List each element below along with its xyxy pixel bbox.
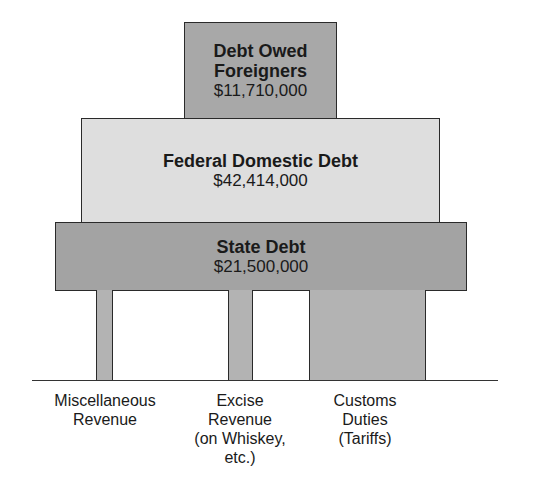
block-amount: $21,500,000 xyxy=(214,257,309,277)
label-line: (on Whiskey, xyxy=(180,429,300,448)
excise-revenue-label: Excise Revenue (on Whiskey, etc.) xyxy=(180,391,300,467)
state-debt-block: State Debt $21,500,000 xyxy=(55,222,467,291)
misc-revenue-label: Miscellaneous Revenue xyxy=(40,391,170,429)
label-line: Miscellaneous xyxy=(40,391,170,410)
customs-duties-label: Customs Duties (Tariffs) xyxy=(315,391,415,448)
label-line: Revenue xyxy=(40,410,170,429)
block-amount: $42,414,000 xyxy=(213,171,308,191)
label-line: Customs xyxy=(315,391,415,410)
label-line: Duties xyxy=(315,410,415,429)
block-title: Foreigners xyxy=(214,61,307,81)
label-line: etc.) xyxy=(180,448,300,467)
excise-revenue-pillar xyxy=(228,290,253,381)
label-line: Excise xyxy=(180,391,300,410)
block-title: Federal Domestic Debt xyxy=(163,151,358,171)
label-line: Revenue xyxy=(180,410,300,429)
block-title: State Debt xyxy=(216,237,305,257)
federal-domestic-debt-block: Federal Domestic Debt $42,414,000 xyxy=(81,118,440,223)
label-line: (Tariffs) xyxy=(315,429,415,448)
block-title: Debt Owed xyxy=(213,41,307,61)
misc-revenue-pillar xyxy=(96,290,113,381)
customs-duties-pillar xyxy=(309,290,426,381)
ground-line xyxy=(32,380,498,381)
debt-owed-foreigners-block: Debt Owed Foreigners $11,710,000 xyxy=(184,22,337,119)
block-amount: $11,710,000 xyxy=(214,81,307,101)
